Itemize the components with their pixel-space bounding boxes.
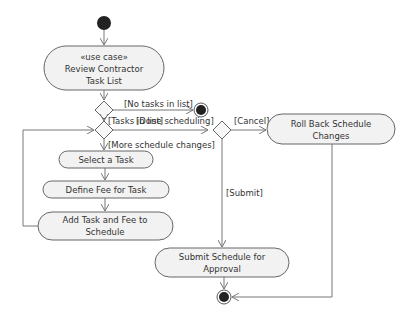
- activity-roll-back-schedule[interactable]: Roll Back Schedule Changes: [267, 114, 395, 144]
- guard-no-tasks: [No tasks in list]: [124, 99, 193, 109]
- activity-label: Task List: [85, 76, 123, 86]
- activity-label: Submit Schedule for: [179, 252, 266, 262]
- activity-label: Define Fee for Task: [66, 185, 147, 195]
- guard-submit: [Submit]: [226, 188, 263, 198]
- stereotype-label: «use case»: [80, 52, 128, 62]
- activity-select-a-task[interactable]: Select a Task: [59, 151, 153, 168]
- activity-label: Roll Back Schedule: [291, 119, 372, 129]
- activity-label: Select a Task: [78, 155, 133, 165]
- activity-label: Schedule: [85, 227, 124, 237]
- activity-label: Add Task and Fee to: [62, 215, 147, 225]
- activity-review-contractor-task-list[interactable]: «use case» Review Contractor Task List: [44, 46, 164, 90]
- activity-add-task-and-fee[interactable]: Add Task and Fee to Schedule: [38, 212, 173, 240]
- activity-diagram: «use case» Review Contractor Task List […: [0, 0, 411, 318]
- initial-node: [97, 16, 111, 30]
- activity-define-fee[interactable]: Define Fee for Task: [43, 181, 169, 198]
- activity-label: Review Contractor: [65, 64, 144, 74]
- guard-cancel: [Cancel]: [234, 116, 269, 126]
- activity-label: Approval: [203, 264, 241, 274]
- guard-more-changes: [More schedule changes]: [108, 140, 215, 150]
- activity-submit-schedule[interactable]: Submit Schedule for Approval: [155, 248, 289, 277]
- decision-node-cancel-submit: [213, 121, 231, 139]
- guard-done-scheduling: [Done scheduling]: [136, 116, 214, 126]
- activity-label: Changes: [313, 131, 351, 141]
